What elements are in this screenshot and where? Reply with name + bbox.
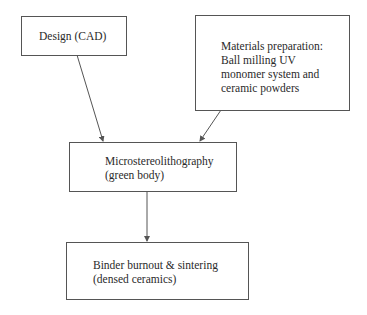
node-materials-line-3: monomer system and [221, 67, 319, 81]
node-materials-line-4: ceramic powders [221, 81, 299, 95]
node-binder-line-1: Binder burnout & sintering [93, 258, 218, 272]
node-materials-line-1: Materials preparation: [221, 39, 323, 53]
node-materials-line-2: Ball milling UV [221, 53, 296, 67]
arrow-materials-to-micro [200, 110, 221, 141]
node-microstereolithography: Microstereolithography (green body) [69, 142, 237, 192]
node-materials: Materials preparation: Ball milling UV m… [195, 15, 350, 111]
node-micro-line-1: Microstereolithography [105, 154, 214, 168]
arrow-design-to-micro [77, 55, 103, 141]
node-binder-line-2: (densed ceramics) [93, 272, 176, 286]
node-design-label: Design (CAD) [39, 29, 106, 43]
node-micro-line-2: (green body) [105, 168, 164, 182]
node-binder-burnout: Binder burnout & sintering (densed ceram… [66, 242, 249, 300]
node-design: Design (CAD) [21, 16, 127, 56]
